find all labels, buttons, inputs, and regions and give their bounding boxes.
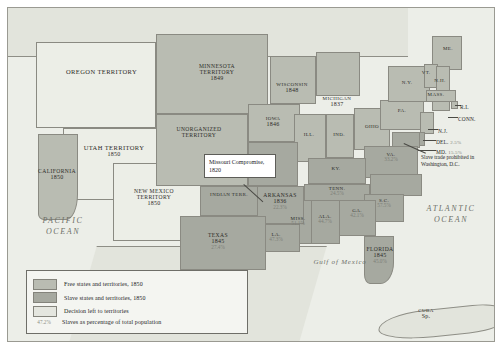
region-new-jersey[interactable] (420, 112, 434, 134)
leader-line-new-jersey (428, 129, 438, 130)
region-iowa[interactable] (248, 104, 300, 142)
region-wisconsin[interactable] (270, 56, 316, 104)
map-legend: Free states and territories, 1850 Slave … (26, 270, 248, 334)
label-rhode-island: R.I. (460, 104, 469, 110)
region-connecticut[interactable] (432, 101, 450, 111)
region-illinois[interactable] (294, 114, 326, 162)
region-kentucky[interactable] (308, 158, 366, 184)
legend-item-open: Decision left to territories (33, 306, 241, 317)
legend-label-slave: Slave states and territories, 1850 (64, 295, 146, 301)
legend-swatch-open (33, 306, 57, 317)
leader-line-connecticut (448, 117, 458, 118)
region-oregon-territory[interactable] (36, 42, 156, 128)
region-indiana[interactable] (326, 114, 354, 158)
legend-label-free: Free states and territories, 1850 (64, 281, 143, 287)
legend-item-free: Free states and territories, 1850 (33, 279, 241, 290)
region-new-hampshire[interactable] (436, 66, 450, 92)
legend-percentage-sample: 47.2% (33, 319, 55, 325)
label-delaware: DEL. 2.5% (436, 139, 461, 145)
legend-swatch-free (33, 279, 57, 290)
dc-slave-trade-note: Slave trade prohibited in Washington, D.… (421, 154, 487, 168)
leader-line-delaware (423, 140, 436, 141)
region-minnesota-territory[interactable] (156, 34, 268, 114)
map-frame: OREGON TERRITORY UTAH TERRITORY 1850 CAL… (7, 7, 495, 342)
region-north-carolina[interactable] (370, 174, 422, 196)
legend-label-open: Decision left to territories (64, 308, 129, 314)
missouri-compromise-callout: Missouri Compromise, 1820 (204, 154, 276, 178)
region-alabama[interactable] (310, 200, 340, 244)
label-new-jersey: N.J. (438, 128, 448, 134)
region-michigan[interactable] (316, 52, 360, 96)
region-texas[interactable] (180, 216, 266, 270)
legend-item-slave: Slave states and territories, 1850 (33, 292, 241, 303)
region-pennsylvania[interactable] (380, 100, 424, 130)
region-california[interactable] (38, 134, 78, 220)
region-georgia[interactable] (338, 200, 376, 236)
region-florida[interactable] (364, 236, 394, 284)
legend-label-percentage: Slaves as percentage of total population (62, 319, 161, 325)
legend-item-percentage: 47.2% Slaves as percentage of total popu… (33, 319, 241, 325)
legend-swatch-slave (33, 292, 57, 303)
label-connecticut: CONN. (458, 116, 476, 122)
